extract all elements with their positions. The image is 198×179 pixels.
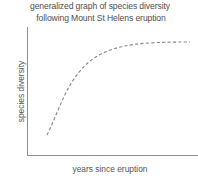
- species-diversity-curve: [27, 27, 198, 156]
- chart-title-line-2: following Mount St Helens eruption: [0, 13, 198, 25]
- chart-title-line-1: generalized graph of species diversity: [0, 1, 198, 13]
- chart-screenshot: generalized graph of species diversity f…: [0, 0, 198, 179]
- x-axis-label: years since eruption: [27, 164, 193, 174]
- plot-area: [27, 27, 198, 156]
- curve-path: [47, 42, 190, 135]
- chart-title: generalized graph of species diversity f…: [0, 1, 198, 24]
- y-axis-label: species diversity: [14, 27, 28, 156]
